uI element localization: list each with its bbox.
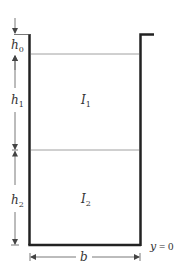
- y-zero-label: y = 0: [149, 240, 174, 253]
- h2-label: h2: [11, 193, 24, 209]
- b-dimension: b: [30, 250, 140, 264]
- right-wall: [141, 35, 155, 247]
- layer-1-label: I1: [80, 93, 91, 109]
- h0-dimension: h0: [11, 18, 24, 70]
- h2-dimension: h2: [11, 152, 24, 246]
- h0-label: h0: [11, 38, 24, 54]
- layer-2-label: I2: [80, 192, 91, 208]
- b-label: b: [80, 250, 88, 264]
- container-diagram: h0 h1 h2 I1 I2 b y = 0: [0, 0, 181, 271]
- container-walls: [14, 34, 154, 246]
- h1-label: h1: [11, 93, 24, 109]
- h1-dimension: h1: [11, 56, 24, 149]
